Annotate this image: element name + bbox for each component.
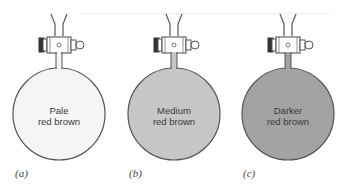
flask-b: [128, 14, 220, 160]
flask-c-caption: Darker red brown: [248, 105, 328, 127]
flask-b-caption: Medium red brown: [134, 105, 214, 127]
panel-label-a: (a): [15, 167, 28, 179]
flask-a-caption: Pale red brown: [19, 105, 99, 127]
panel-label-b: (b): [129, 167, 142, 179]
flask-c-line2: red brown: [248, 116, 328, 127]
flask-a-line2: red brown: [19, 116, 99, 127]
flask-c-line1: Darker: [248, 105, 328, 116]
flask-c: [242, 14, 334, 160]
flask-a: [13, 14, 105, 160]
flask-a-line1: Pale: [19, 105, 99, 116]
flask-b-line1: Medium: [134, 105, 214, 116]
flasks-drawing: [0, 0, 346, 193]
flask-b-line2: red brown: [134, 116, 214, 127]
flask-diagram: Pale red brown Medium red brown Darker r…: [0, 0, 346, 193]
panel-label-c: (c): [243, 167, 255, 179]
